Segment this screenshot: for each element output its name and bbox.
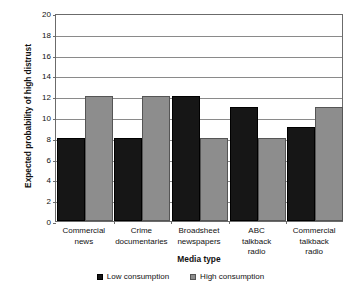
- bar-high-consumption: [315, 107, 343, 221]
- bar-group: [114, 15, 172, 221]
- x-axis-title: Media type: [55, 254, 343, 264]
- y-axis-title: Expected probability of high distrust: [23, 11, 33, 221]
- x-axis-tick-label: Commercialtalkbackradio: [277, 226, 351, 258]
- legend-item: High consumption: [190, 272, 264, 281]
- legend-label: High consumption: [200, 272, 264, 281]
- x-axis-tick: [114, 221, 115, 224]
- bar-low-consumption: [57, 138, 85, 221]
- bar-group: [286, 15, 344, 221]
- square-black-icon: [97, 274, 103, 280]
- legend-label: Low consumption: [107, 272, 169, 281]
- y-axis-tick-label: 8: [47, 136, 51, 144]
- bar-group: [229, 15, 287, 221]
- chart-legend: Low consumptionHigh consumption: [0, 272, 361, 281]
- y-axis-tick-label: 4: [47, 177, 51, 185]
- square-gray-icon: [190, 274, 196, 280]
- y-axis-tick-label: 6: [47, 157, 51, 165]
- bar-low-consumption: [287, 127, 315, 221]
- y-axis-tick-label: 14: [42, 73, 51, 81]
- y-axis-tick-label: 10: [42, 115, 51, 123]
- plot-area: 02468101214161820: [55, 14, 343, 222]
- bar-high-consumption: [258, 138, 286, 221]
- y-axis-tick: [53, 223, 56, 224]
- bar-chart: Expected probability of high distrust 02…: [0, 0, 361, 289]
- x-axis-tick: [171, 221, 172, 224]
- bars-layer: [56, 15, 342, 221]
- x-axis-tick: [286, 221, 287, 224]
- bar-group: [171, 15, 229, 221]
- bar-low-consumption: [114, 138, 142, 221]
- bar-high-consumption: [85, 96, 113, 221]
- y-axis-tick-label: 16: [42, 53, 51, 61]
- bar-high-consumption: [200, 138, 228, 221]
- bar-low-consumption: [230, 107, 258, 221]
- x-axis-tick: [229, 221, 230, 224]
- bar-low-consumption: [172, 96, 200, 221]
- bar-high-consumption: [142, 96, 170, 221]
- y-axis-tick-label: 12: [42, 94, 51, 102]
- y-axis-tick-label: 20: [42, 11, 51, 19]
- legend-item: Low consumption: [97, 272, 169, 281]
- y-axis-tick-label: 18: [42, 32, 51, 40]
- y-axis-tick-label: 2: [47, 198, 51, 206]
- bar-group: [56, 15, 114, 221]
